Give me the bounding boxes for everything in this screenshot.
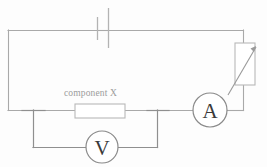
ammeter-label: A	[202, 99, 218, 123]
voltmeter-label: V	[94, 136, 109, 160]
circuit-diagram: A V component X	[0, 0, 267, 167]
component-x-label: component X	[64, 88, 117, 98]
circuit-svg: A V	[0, 0, 267, 167]
component-x-body	[75, 104, 125, 118]
